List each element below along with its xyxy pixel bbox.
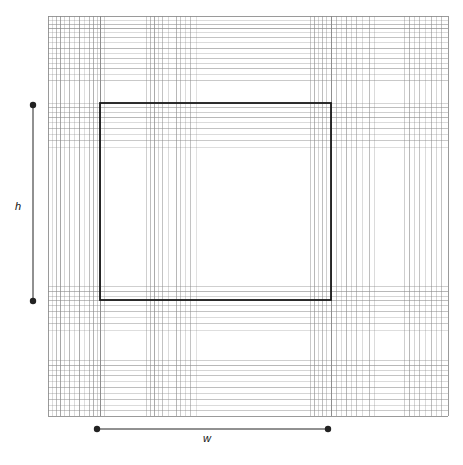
dimension-endpoint-marker: [325, 426, 331, 432]
width-dimension-label: w: [203, 432, 211, 444]
dimension-endpoint-marker: [30, 298, 36, 304]
diagram-canvas: [0, 0, 463, 465]
dimension-endpoint-marker: [30, 102, 36, 108]
height-dimension-label: h: [15, 200, 21, 212]
grid-rectangle-diagram: h w: [0, 0, 463, 465]
dimension-endpoint-marker: [94, 426, 100, 432]
